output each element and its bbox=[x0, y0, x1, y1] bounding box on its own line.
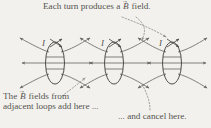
bl-text-before: The bbox=[3, 91, 17, 101]
field-line-upper-right-1 bbox=[61, 38, 90, 52]
current-label-1: I bbox=[41, 38, 46, 48]
field-line-lower-right-2 bbox=[120, 74, 149, 88]
current-label-3: I bbox=[158, 38, 163, 48]
bl-text-after: fields from bbox=[29, 91, 70, 101]
field-line-upper-right-3 bbox=[178, 38, 207, 52]
bottom-right-caption: ... and cancel here. bbox=[118, 112, 187, 122]
top-caption-text-before: Each turn produces a bbox=[43, 1, 120, 11]
current-label-group: I I I bbox=[41, 38, 163, 48]
b-vector-symbol-bottom: →B bbox=[20, 92, 27, 102]
field-line-upper-right-2 bbox=[120, 38, 149, 52]
bottom-left-caption-line2: adjacent loops add here ... bbox=[3, 102, 99, 112]
top-caption-text-after: field. bbox=[132, 1, 151, 11]
field-line-lower-left-2 bbox=[80, 74, 108, 88]
field-line-lower-left-3 bbox=[138, 74, 166, 88]
current-label-2: I bbox=[100, 38, 105, 48]
field-line-lower-left-1 bbox=[20, 74, 49, 88]
b-vector-symbol-top: →B bbox=[123, 2, 130, 12]
leader-top-to-gap23 bbox=[136, 17, 144, 40]
bottom-left-caption: The →B fields from adjacent loops add he… bbox=[3, 92, 99, 112]
top-caption: Each turn produces a →B field. bbox=[43, 2, 151, 12]
field-lines-group bbox=[20, 38, 207, 88]
field-line-lower-right-3 bbox=[178, 74, 207, 88]
vector-arrow-icon: → bbox=[122, 0, 129, 5]
vector-arrow-icon: → bbox=[19, 88, 26, 95]
